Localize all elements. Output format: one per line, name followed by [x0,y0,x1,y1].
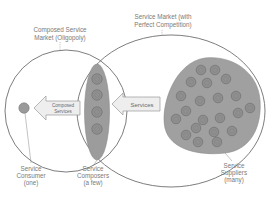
consumer-label-line3: (one) [24,179,39,187]
consumer-label-line1: Service [21,165,42,172]
services-label: Services [130,102,153,108]
supplier-node [198,115,208,125]
supplier-node [213,93,223,103]
composer-node [92,124,102,134]
supplier-node [193,137,203,147]
composer-node [92,107,102,117]
supplier-node [171,114,181,124]
composers-label-line3: (a few) [83,179,102,187]
supplier-node [202,78,212,88]
supplier-node [215,113,225,123]
supplier-node [221,74,231,84]
supplier-node [176,91,186,101]
service-market-title-line1: Service Market (with [134,13,192,21]
suppliers-label-line3: (many) [224,176,244,184]
supplier-node [191,123,201,133]
supplier-node [186,77,196,87]
supplier-node [227,126,237,136]
supplier-node [210,65,220,75]
composer-node [92,90,102,100]
supplier-node [212,137,222,147]
supplier-node [231,91,241,101]
market-diagram: Composed Services Services Composed Serv… [0,0,268,199]
supplier-node [181,106,191,116]
supplier-node [245,103,255,113]
supplier-node [195,96,205,106]
consumer-label-line2: Consumer [16,172,45,179]
suppliers-label-line1: Service [224,162,245,169]
composer-node [92,74,102,84]
composed-market-title-line2: Market (Oligopoly) [34,34,85,42]
supplier-node [181,130,191,140]
services-arrow: Services [112,93,160,115]
supplier-node [233,108,243,118]
composed-services-label-line2: Services [54,109,72,114]
composed-market-title-line1: Composed Service [33,26,87,34]
supplier-node [196,65,206,75]
consumer-node [19,103,29,113]
composed-services-label-line1: Composed [52,103,75,108]
consumer-leader [25,113,31,163]
service-market-title-line2: Perfect Competition) [134,21,191,29]
composers-label-line1: Service [83,165,104,172]
composed-services-arrow: Composed Services [34,96,80,120]
supplier-node [209,127,219,137]
suppliers-leader [225,153,232,161]
